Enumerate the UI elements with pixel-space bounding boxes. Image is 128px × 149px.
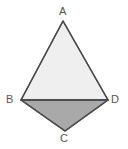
kite-figure-svg [0, 0, 128, 149]
triangle-BCD-shape [21, 100, 108, 131]
geometry-figure-canvas: A B C D [0, 0, 128, 149]
vertex-label-d: D [111, 94, 119, 105]
vertex-label-a: A [59, 6, 66, 17]
vertex-label-b: B [6, 94, 13, 105]
triangle-ABD-shape [21, 21, 108, 100]
vertex-label-c: C [60, 133, 68, 144]
